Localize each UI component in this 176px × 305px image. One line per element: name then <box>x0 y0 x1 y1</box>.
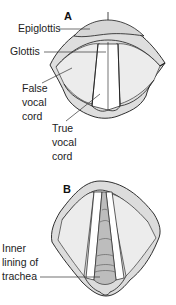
label-true-vocal-cord-2: vocal <box>52 136 77 148</box>
label-inner-lining-3: trachea <box>2 270 37 282</box>
epiglottis <box>74 20 144 37</box>
label-false-vocal-cord-1: False <box>22 82 48 94</box>
label-true-vocal-cord-1: True <box>52 122 73 134</box>
label-true-vocal-cord-3: cord <box>52 150 73 162</box>
label-epiglottis: Epiglottis <box>18 22 61 34</box>
larynx-diagram: A Epiglottis Glottis False vocal cord Tr… <box>0 0 176 305</box>
label-inner-lining-1: Inner <box>2 242 26 254</box>
label-inner-lining-2: lining of <box>2 256 38 268</box>
label-false-vocal-cord-2: vocal <box>22 96 47 108</box>
panel-b: B Inner lining of trachea <box>2 181 160 296</box>
label-false-vocal-cord-3: cord <box>22 110 43 122</box>
label-glottis: Glottis <box>10 45 40 57</box>
panel-a: A Epiglottis Glottis False vocal cord Tr… <box>10 10 165 162</box>
panel-label-b: B <box>63 183 71 195</box>
panel-label-a: A <box>64 10 72 22</box>
